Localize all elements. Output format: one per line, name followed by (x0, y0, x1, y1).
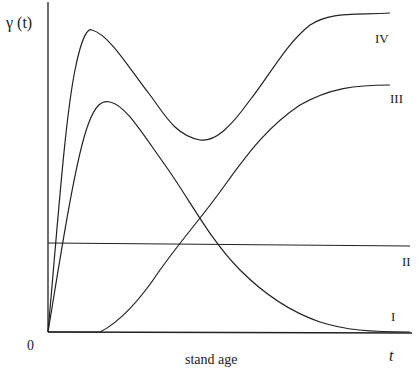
curve-label-IV: IV (375, 31, 389, 46)
curve-II (48, 243, 410, 246)
chart-canvas: γ (t) IV III II I 0 stand age t (0, 0, 419, 375)
curve-III (48, 85, 390, 332)
x-axis-label: stand age (185, 352, 237, 367)
x-axis-symbol: t (389, 347, 394, 364)
origin-label: 0 (27, 338, 34, 353)
curve-label-II: II (402, 254, 411, 269)
curve-IV (48, 13, 390, 332)
y-axis-label: γ (t) (5, 14, 32, 32)
curve-label-III: III (390, 91, 403, 106)
curve-I (48, 102, 410, 332)
curve-label-I: I (391, 309, 395, 324)
x-axis (48, 332, 412, 333)
